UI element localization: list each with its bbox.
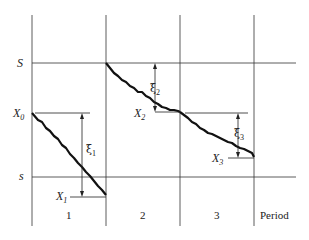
arrowhead-up-1 — [80, 113, 84, 119]
start-level-label: X0 — [12, 106, 24, 122]
arrowhead-down-1 — [80, 191, 84, 197]
demand-label-1: ξ1 — [86, 143, 96, 158]
period-number-3: 3 — [214, 209, 220, 221]
lower-level-label: s — [19, 169, 24, 183]
arrowhead-down-2 — [153, 106, 157, 112]
arrowhead-up-2 — [153, 63, 157, 69]
upper-level-label: S — [17, 56, 23, 70]
demand-label-2: ξ2 — [150, 82, 160, 97]
demand-label-3: ξ3 — [234, 127, 244, 142]
inventory-sS-diagram: S s X0 ξ1 X1 ξ2 X2 ξ3 X3 1 2 3 Period — [0, 0, 309, 240]
x3-label: X3 — [211, 151, 223, 167]
inventory-path-period-2 — [106, 63, 180, 112]
arrowhead-down-3 — [236, 152, 240, 158]
arrowhead-up-3 — [236, 113, 240, 119]
x1-label: X1 — [55, 189, 67, 205]
period-number-2: 2 — [140, 209, 146, 221]
x2-label: X2 — [133, 106, 145, 122]
period-axis-label: Period — [260, 209, 289, 221]
period-number-1: 1 — [66, 209, 72, 221]
